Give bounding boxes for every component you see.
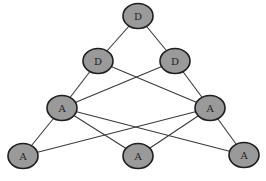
edges-layer	[23, 16, 244, 156]
node-label: A	[57, 103, 66, 114]
node-a4: A	[123, 144, 153, 169]
edge-d3-a1	[62, 61, 175, 108]
node-a2: A	[195, 96, 225, 121]
node-a5: A	[229, 143, 259, 168]
node-label: A	[18, 151, 27, 162]
node-d2: D	[83, 49, 113, 74]
node-label: A	[205, 103, 214, 114]
graph-diagram: DDDAAAAA	[0, 0, 266, 181]
node-label: A	[239, 150, 248, 161]
node-label: D	[94, 56, 102, 67]
node-a1: A	[47, 96, 77, 121]
node-d1: D	[123, 4, 153, 29]
node-label: D	[171, 56, 179, 67]
node-a3: A	[8, 144, 38, 169]
nodes-layer: DDDAAAAA	[8, 4, 259, 169]
edge-d2-a2	[98, 61, 210, 108]
node-label: D	[134, 11, 142, 22]
node-label: A	[133, 151, 142, 162]
node-d3: D	[160, 49, 190, 74]
